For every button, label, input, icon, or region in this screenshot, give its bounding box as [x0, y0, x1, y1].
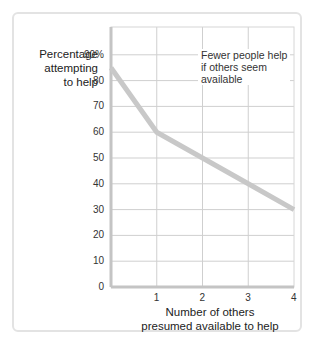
y-tick-label: 20	[70, 229, 104, 240]
x-axis-label: Number of others presumed available to h…	[130, 305, 290, 333]
y-tick-label: 60	[70, 126, 104, 137]
y-tick-label: 80	[70, 75, 104, 86]
x-tick-label: 3	[245, 292, 251, 303]
x-axis-label-line: presumed available to help	[130, 319, 290, 333]
y-tick-label: 90%	[70, 49, 104, 60]
y-tick-label: 10	[70, 255, 104, 266]
annotation-line: if others seem	[201, 61, 287, 73]
x-tick-label: 2	[200, 292, 206, 303]
y-tick-label: 30	[70, 204, 104, 215]
y-tick-label: 0	[70, 281, 104, 292]
y-tick-label: 70	[70, 100, 104, 111]
annotation-line: available	[201, 73, 287, 85]
annotation: Fewer people help if others seem availab…	[198, 49, 290, 85]
x-axis-label-line: Number of others	[130, 305, 290, 319]
y-tick-label: 50	[70, 152, 104, 163]
annotation-line: Fewer people help	[201, 49, 287, 61]
y-axis-label-line: attempting	[39, 61, 98, 75]
x-tick-label: 1	[154, 292, 160, 303]
y-tick-label: 40	[70, 178, 104, 189]
x-tick-label: 4	[291, 292, 297, 303]
